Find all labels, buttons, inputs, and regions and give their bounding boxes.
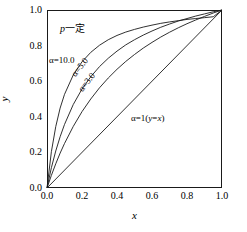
x-tick-label: 0.8 [181,191,194,201]
x-axis-title: x [47,209,222,221]
chart-figure: 1.0 0.8 0.6 0.4 0.2 0.0 0.0 0.2 0.4 0.6 … [0,0,247,232]
y-axis-title: y [0,97,10,102]
y-tick-label: 0.8 [30,41,43,51]
x-tick-label: 0.6 [146,191,159,201]
x-tick-label: 0.2 [76,191,89,201]
annotation-alpha-1-prefix: α=1( [131,113,148,123]
y-tick-label: 0.4 [30,112,43,122]
curve-alpha-1 [47,10,222,188]
annotation-alpha-1: α=1(y=x) [131,114,164,123]
x-tick-label: 0.0 [41,191,54,201]
y-tick-label: 1.0 [30,5,43,15]
x-tick-label: 1.0 [216,191,229,201]
curves-layer [47,10,222,188]
y-tick-label: 0.6 [30,76,43,86]
y-tick-label: 0.2 [30,147,43,157]
annotation-alpha-1-suffix: ) [161,113,164,123]
annotation-alpha-10: α=10.0 [49,56,75,65]
x-tick-label: 0.4 [111,191,124,201]
annotation-p-constant: p一定 [60,24,85,33]
annotation-p-text: 一定 [65,23,85,34]
